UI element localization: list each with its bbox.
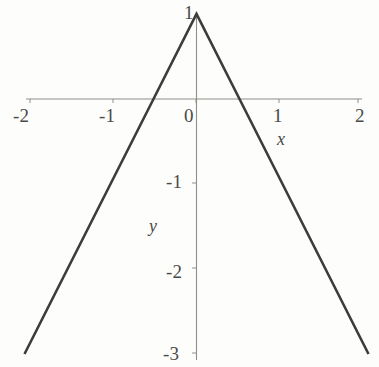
x-axis-ticks	[30, 99, 358, 103]
x-tick-label-neg1: -1	[99, 106, 115, 125]
x-tick-label-two: 2	[355, 106, 365, 125]
x-tick-label-one: 1	[273, 106, 283, 125]
y-axis-name: y	[149, 217, 157, 235]
x-tick-label-zero: 0	[184, 106, 194, 125]
x-tick-label-neg2: -2	[13, 106, 29, 125]
plot-figure: -2 -1 0 1 2 1 -1 -2 -3 x y	[0, 0, 379, 367]
y-tick-label-neg1: -1	[166, 172, 182, 191]
y-tick-label-neg3: -3	[163, 344, 179, 363]
plot-canvas	[0, 0, 379, 367]
y-tick-label-one: 1	[184, 3, 194, 22]
y-axis-ticks	[192, 183, 196, 353]
x-axis-name: x	[277, 130, 285, 148]
y-tick-label-neg2: -2	[166, 262, 182, 281]
